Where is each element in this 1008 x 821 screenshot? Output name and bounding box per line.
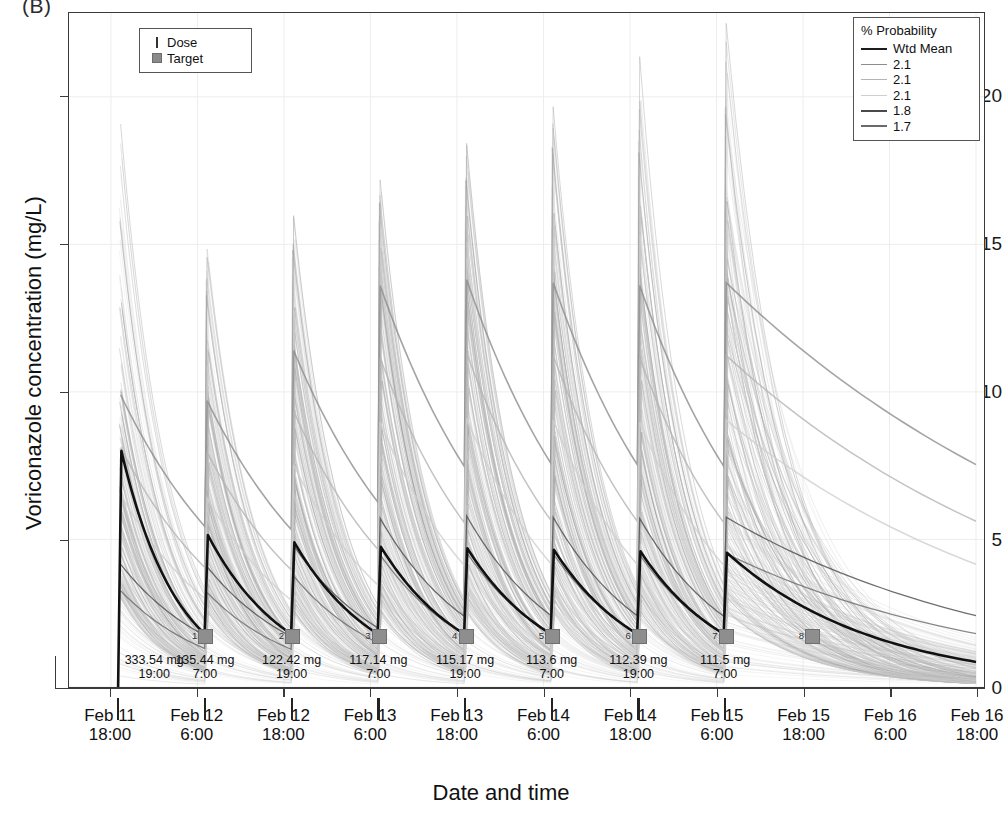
x-tick-date: Feb 15 [690,706,743,725]
dose-amount: 115.17 mg [436,653,494,667]
legend-dose: Dose Target [139,28,252,73]
legend-dose-label: Dose [167,35,197,50]
legend-line-swatch [861,48,887,50]
x-tick-time: 18:00 [956,725,999,744]
legend-probability-item: 1.7 [861,119,973,135]
target-marker-number: 4 [452,630,457,641]
x-tick-date: Feb 11 [84,706,136,725]
legend-line-swatch [861,79,887,80]
legend-probability-item: 2.1 [861,88,973,104]
dose-time: 7:00 [366,667,390,681]
x-tick-mark [890,689,891,697]
x-tick-mark [457,689,458,697]
legend-line-swatch [861,95,887,96]
dose-tick [724,698,726,720]
legend-probability-label: 2.1 [893,57,911,72]
y-tick-mark [60,540,68,541]
legend-probability-label: 1.8 [893,103,911,118]
x-tick-date: Feb 14 [517,706,570,725]
target-marker-number: 5 [539,630,544,641]
x-tick-mark [977,689,978,697]
x-tick-time: 18:00 [782,725,825,744]
dose-annotation: 117.14 mg7:00 [328,653,428,681]
target-marker-number: 7 [712,630,717,641]
dose-amount: 112.39 mg [609,653,667,667]
dose-tick [291,698,293,720]
dose-time: 7:00 [540,667,564,681]
x-tick-mark [717,689,718,697]
x-tick-mark [544,689,545,697]
dose-time: 7:00 [713,667,737,681]
dose-time: 19:00 [276,667,307,681]
dose-amount: 111.5 mg [700,653,750,667]
dose-tick [117,698,119,720]
legend-target-label: Target [167,51,203,66]
x-tick-mark [804,689,805,697]
target-marker[interactable] [459,629,474,644]
target-marker-number: 1 [192,630,197,641]
x-tick-time: 18:00 [436,725,479,744]
x-axis-title: Date and time [0,780,1002,806]
dose-amount: 113.6 mg [526,653,577,667]
target-marker-number: 2 [279,630,284,641]
x-tick-time: 6:00 [700,725,733,744]
target-marker[interactable] [719,629,734,644]
x-tick-mark [630,689,631,697]
x-tick-mark [197,689,198,697]
dose-time: 19:00 [623,667,654,681]
legend-probability-item: 2.1 [861,72,973,88]
dose-amount: 135.44 mg [175,653,234,667]
target-marker-number: 8 [799,630,804,641]
panel-label: (B) [22,0,52,18]
dose-time: 7:00 [193,667,217,681]
x-tick-date: Feb 13 [344,706,397,725]
y-tick-mark [60,244,68,245]
y-axis-line [55,656,56,689]
x-tick-time: 18:00 [89,725,132,744]
legend-line-swatch [861,110,887,112]
x-tick-date: Feb 15 [777,706,830,725]
dose-annotation: 112.39 mg19:00 [588,653,688,681]
legend-line-swatch [861,64,887,65]
legend-probability-title: % Probability [861,23,973,38]
target-marker[interactable] [805,629,820,644]
target-marker[interactable] [632,629,647,644]
x-tick-time: 6:00 [874,725,907,744]
dose-tick [377,698,379,720]
dose-amount: 117.14 mg [349,653,407,667]
x-axis-line [55,688,985,689]
legend-probability-item: Wtd Mean [861,41,973,57]
legend-probability: % Probability Wtd Mean2.12.12.11.81.7 [853,17,980,141]
dose-tick [464,698,466,720]
x-tick-mark [283,689,284,697]
target-marker[interactable] [372,629,387,644]
x-tick-mark [110,689,111,697]
dose-time: 19:00 [449,667,480,681]
x-tick-mark [370,689,371,697]
x-tick-date: Feb 16 [951,706,1004,725]
x-tick-date: Feb 13 [430,706,483,725]
y-tick-mark [60,96,68,97]
legend-probability-item: 2.1 [861,57,973,73]
dose-amount: 122.42 mg [262,653,321,667]
y-axis-title: Voriconazole concentration (mg/L) [21,93,47,633]
target-marker[interactable] [285,629,300,644]
x-tick-time: 6:00 [527,725,560,744]
dose-annotation: 115.17 mg19:00 [415,653,515,681]
legend-probability-label: Wtd Mean [893,41,952,56]
legend-probability-item: 1.8 [861,103,973,119]
legend-item-target: Target [147,50,245,66]
dose-annotation: 111.5 mg7:00 [675,653,775,681]
legend-probability-label: 2.1 [893,72,911,87]
x-tick-time: 18:00 [262,725,305,744]
legend-item-dose: Dose [147,34,245,50]
legend-probability-label: 1.7 [893,119,911,134]
dose-annotation: 135.44 mg7:00 [155,653,255,681]
x-tick-date: Feb 14 [604,706,657,725]
target-marker[interactable] [545,629,560,644]
legend-line-swatch [861,125,887,127]
target-marker-number: 3 [365,630,370,641]
legend-probability-label: 2.1 [893,88,911,103]
target-marker[interactable] [198,629,213,644]
plot-area: Dose Target % Probability Wtd Mean2.12.1… [68,12,985,688]
